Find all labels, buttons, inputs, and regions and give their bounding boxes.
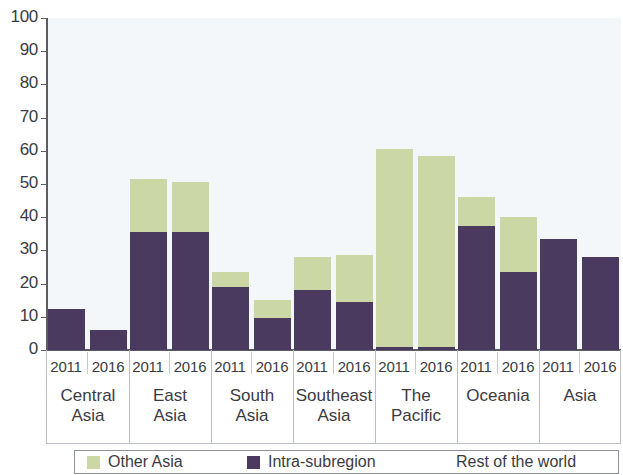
bar-segment-intra-subregion: [582, 257, 619, 350]
x-axis-year-label: 2011: [456, 358, 497, 375]
legend-swatch-icon: [87, 456, 100, 469]
bar-asia-2011: [540, 239, 577, 350]
x-axis-group-label: SoutheastAsia: [293, 386, 375, 426]
bar-segment-intra-subregion: [458, 226, 495, 351]
x-axis-year-label: 2016: [498, 358, 539, 375]
bar-oceania-2011: [458, 197, 495, 350]
x-axis-group-label: CentralAsia: [47, 386, 129, 426]
group-label-line1: East: [129, 386, 211, 406]
x-axis-year-label: 2011: [374, 358, 415, 375]
x-axis-year-label: 2011: [210, 358, 251, 375]
group-label-line2: Asia: [129, 406, 211, 426]
x-axis-group-label: EastAsia: [129, 386, 211, 426]
bar-segment-other-asia: [212, 272, 249, 287]
y-tick-mark: [41, 84, 47, 85]
x-axis-year-label: 2016: [580, 358, 621, 375]
x-axis-year-label: 2016: [170, 358, 211, 375]
x-axis-bottom-rule: [46, 443, 621, 444]
bar-segment-intra-subregion: [294, 290, 331, 350]
legend-swatch-icon: [435, 456, 448, 469]
group-label-line1: Oceania: [457, 386, 539, 406]
y-tick-mark: [41, 217, 47, 218]
bar-segment-intra-subregion: [130, 232, 167, 350]
x-axis-group-label: ThePacific: [375, 386, 457, 426]
x-axis-year-label: 2016: [88, 358, 129, 375]
bar-south-2016: [254, 300, 291, 350]
legend-label: Other Asia: [108, 453, 183, 471]
x-axis-group-label: Oceania: [457, 386, 539, 406]
x-axis-year-label: 2016: [416, 358, 457, 375]
y-tick-mark: [41, 151, 47, 152]
bar-segment-intra-subregion: [172, 232, 209, 350]
bar-southeast-2011: [294, 257, 331, 350]
bar-segment-intra-subregion: [500, 272, 537, 350]
y-tick-label: 60: [0, 140, 38, 160]
stacked-bar-chart: 1009080706050403020100 20112016CentralAs…: [0, 0, 623, 475]
group-label-line1: The: [375, 386, 457, 406]
x-axis-year-label: 2016: [334, 358, 375, 375]
y-tick-label: 80: [0, 73, 38, 93]
group-label-line2: Asia: [211, 406, 293, 426]
bar-segment-other-asia: [294, 257, 331, 290]
x-axis-year-label: 2011: [46, 358, 87, 375]
x-axis-year-label: 2016: [252, 358, 293, 375]
y-tick-label: 0: [0, 339, 38, 359]
bar-the-2016: [418, 156, 455, 350]
y-tick-label: 90: [0, 40, 38, 60]
bar-segment-other-asia: [336, 255, 373, 301]
bar-oceania-2016: [500, 217, 537, 350]
bar-segment-other-asia: [500, 217, 537, 272]
bar-segment-intra-subregion: [540, 239, 577, 350]
bar-east-2016: [172, 182, 209, 350]
bar-asia-2016: [582, 257, 619, 350]
group-label-line1: Asia: [539, 386, 621, 406]
y-tick-mark: [41, 184, 47, 185]
chart-legend: Other AsiaIntra-subregionRest of the wor…: [74, 450, 619, 474]
y-tick-label: 30: [0, 239, 38, 259]
x-axis-group-label: Asia: [539, 386, 621, 406]
bar-segment-intra-subregion: [376, 347, 413, 350]
bar-southeast-2016: [336, 255, 373, 350]
legend-item: Intra-subregion: [247, 451, 376, 473]
y-tick-mark: [41, 18, 47, 19]
y-tick-label: 40: [0, 206, 38, 226]
group-label-line2: Pacific: [375, 406, 457, 426]
bar-segment-other-asia: [418, 156, 455, 347]
x-axis-year-label: 2011: [538, 358, 579, 375]
bar-central-2011: [48, 309, 85, 351]
bar-the-2011: [376, 149, 413, 350]
bar-segment-other-asia: [376, 149, 413, 347]
bar-segment-other-asia: [130, 179, 167, 232]
y-tick-mark: [41, 317, 47, 318]
bar-south-2011: [212, 272, 249, 350]
y-tick-label: 70: [0, 107, 38, 127]
x-axis-year-label: 2011: [292, 358, 333, 375]
group-label-line1: South: [211, 386, 293, 406]
group-label-line1: Southeast: [293, 386, 375, 406]
bar-segment-intra-subregion: [418, 347, 455, 350]
y-tick-mark: [41, 284, 47, 285]
bar-segment-intra-subregion: [336, 302, 373, 350]
bar-segment-intra-subregion: [212, 287, 249, 350]
y-tick-label: 10: [0, 306, 38, 326]
legend-item: Rest of the world: [435, 451, 576, 473]
legend-item: Other Asia: [87, 451, 183, 473]
legend-swatch-icon: [247, 456, 260, 469]
legend-label: Intra-subregion: [268, 453, 376, 471]
y-tick-mark: [41, 118, 47, 119]
group-label-line2: Asia: [47, 406, 129, 426]
bar-segment-other-asia: [254, 300, 291, 318]
x-axis-year-label: 2011: [128, 358, 169, 375]
bar-central-2016: [90, 330, 127, 350]
bar-east-2011: [130, 179, 167, 350]
bar-segment-other-asia: [172, 182, 209, 232]
x-axis-group-label: SouthAsia: [211, 386, 293, 426]
y-tick-label: 20: [0, 273, 38, 293]
y-tick-mark: [41, 51, 47, 52]
bar-segment-intra-subregion: [90, 330, 127, 350]
bar-segment-intra-subregion: [254, 318, 291, 350]
y-tick-label: 50: [0, 173, 38, 193]
group-label-line1: Central: [47, 386, 129, 406]
y-tick-mark: [41, 250, 47, 251]
y-tick-label: 100: [0, 7, 38, 27]
